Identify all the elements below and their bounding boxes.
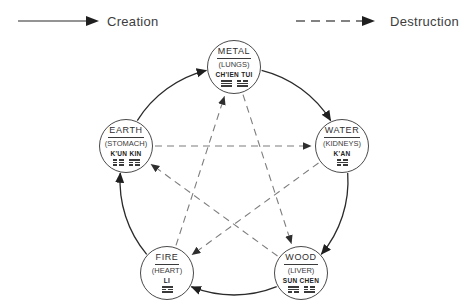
- trigram-symbols: [288, 286, 315, 293]
- five-elements-diagram: Creation Destruction METAL (LUNGS) CH'IE…: [0, 0, 471, 306]
- element-name: METAL: [217, 47, 251, 58]
- creation-arrow-water-to-wood: [321, 173, 348, 254]
- creation-arrow-fire-to-earth: [120, 173, 147, 254]
- destruction-arrow-metal-to-wood: [243, 95, 291, 244]
- creation-arrow-wood-to-fire: [191, 287, 276, 295]
- trigram-names: LI: [164, 277, 170, 284]
- element-name: EARTH: [108, 126, 143, 137]
- organ-name: (STOMACH): [105, 140, 147, 148]
- element-name: WOOD: [284, 253, 317, 264]
- organ-name: (HEART): [152, 267, 182, 275]
- trigram-symbols: [221, 80, 248, 87]
- node-fire: FIRE (HEART) LI: [140, 246, 194, 300]
- element-name: FIRE: [155, 253, 180, 264]
- destruction-legend-arrowhead-icon: [362, 16, 375, 26]
- destruction-arrow-water-to-fire: [192, 163, 318, 255]
- trigram-symbols: [113, 159, 140, 166]
- destruction-arrow-wood-to-earth: [151, 164, 277, 256]
- organ-name: (KIDNEYS): [323, 140, 361, 148]
- node-earth: EARTH (STOMACH) K'UN KIN: [99, 119, 153, 173]
- trigram-names: CH'IEN TUI: [215, 71, 252, 78]
- trigram-names: K'UN KIN: [110, 150, 141, 157]
- destruction-arrow-fire-to-metal: [176, 97, 224, 246]
- creation-arrow-metal-to-water: [262, 70, 331, 120]
- element-name: WATER: [324, 126, 361, 137]
- trigram-names: SUN CHEN: [283, 277, 319, 284]
- node-metal: METAL (LUNGS) CH'IEN TUI: [207, 40, 261, 94]
- creation-legend-arrowhead-icon: [86, 16, 99, 26]
- organ-name: (LUNGS): [219, 61, 250, 69]
- trigram-symbols: [337, 159, 348, 166]
- trigram-names: K'AN: [334, 150, 351, 157]
- organ-name: (LIVER): [288, 267, 315, 275]
- creation-legend-label: Creation: [107, 14, 159, 29]
- destruction-legend-label: Destruction: [390, 14, 459, 29]
- trigram-symbols: [162, 286, 173, 293]
- node-water: WATER (KIDNEYS) K'AN: [315, 119, 369, 173]
- node-wood: WOOD (LIVER) SUN CHEN: [274, 246, 328, 300]
- creation-arrow-earth-to-metal: [137, 70, 206, 120]
